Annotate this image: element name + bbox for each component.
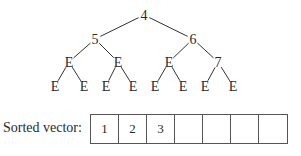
tree-node: E <box>151 79 160 94</box>
binary-tree: 456EEE7EEEEEEEE <box>0 0 301 100</box>
tree-nodes: 456EEE7EEEEEEEE <box>51 8 238 94</box>
tree-node: E <box>80 79 89 94</box>
vector-cell <box>203 115 231 143</box>
vector-cell <box>175 115 203 143</box>
tree-node: E <box>165 55 174 70</box>
tree-edge <box>73 43 90 58</box>
tree-node: E <box>229 79 238 94</box>
vector-cell: 2 <box>119 115 147 143</box>
sorted-vector-label: Sorted vector: <box>3 120 82 136</box>
tree-edge <box>99 43 114 58</box>
tree-node: 5 <box>92 32 99 47</box>
tree-node: E <box>102 79 111 94</box>
vector-cell: 1 <box>91 115 119 143</box>
tree-node: E <box>114 55 123 70</box>
vector-cell <box>259 115 287 143</box>
tree-node: E <box>51 79 60 94</box>
vector-cell: 3 <box>147 115 175 143</box>
tree-node: E <box>201 79 210 94</box>
tree-node: 6 <box>190 32 197 47</box>
tree-edge <box>173 43 188 58</box>
tree-edges <box>58 18 230 81</box>
vector-cell <box>231 115 259 143</box>
tree-node: 7 <box>215 55 222 70</box>
tree-edge <box>149 18 187 37</box>
tree-node: 4 <box>141 8 148 23</box>
tree-edge <box>100 18 138 37</box>
sorted-vector: 1 2 3 <box>90 114 288 144</box>
tree-node: E <box>179 79 188 94</box>
tree-node: E <box>65 55 74 70</box>
tree-node: E <box>129 79 138 94</box>
tree-edge <box>197 43 213 58</box>
